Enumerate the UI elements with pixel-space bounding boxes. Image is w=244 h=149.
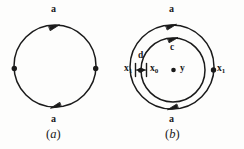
panel-b-outer-right-point-dot: [211, 67, 216, 72]
panel-b-left-boundary-sub: 1: [129, 67, 133, 75]
panel-b-right-boundary-sub: 1: [222, 67, 226, 75]
panel-b-gap-label: d: [138, 51, 143, 61]
panel-b-caption-close: ): [175, 127, 179, 141]
panel-b-outer-bottom-arrow-icon: [168, 104, 179, 110]
panel-a-top-arc-label: a: [51, 4, 56, 14]
panel-b-outer-top-label: a: [169, 4, 174, 14]
figure-root: a a (a) a a c d x1 x1 x0 y (b): [0, 0, 244, 149]
panel-a-caption: (a): [46, 128, 61, 141]
panel-b-inner-top-label: c: [170, 43, 174, 53]
figure-svg: [0, 0, 244, 149]
panel-b-inner-left-label: x0: [150, 64, 158, 74]
panel-a-bottom-arc-label: a: [51, 114, 56, 124]
panel-b-inner-left-sub: 0: [155, 67, 159, 75]
panel-b-left-boundary-label: x1: [124, 64, 132, 74]
panel-b-center-point-dot: [171, 68, 176, 73]
panel-a-caption-close: ): [56, 127, 60, 141]
panel-a-left-point-dot: [12, 66, 17, 71]
panel-b-outer-bottom-label: a: [169, 114, 174, 124]
panel-b-outer-top-arrow-icon: [166, 24, 177, 30]
panel-a-main-circle: [14, 25, 96, 107]
panel-b-caption: (b): [165, 128, 180, 141]
panel-b-right-boundary-label: x1: [217, 64, 225, 74]
panel-b-center-label: y: [180, 64, 185, 74]
panel-a-right-point-dot: [93, 66, 98, 71]
